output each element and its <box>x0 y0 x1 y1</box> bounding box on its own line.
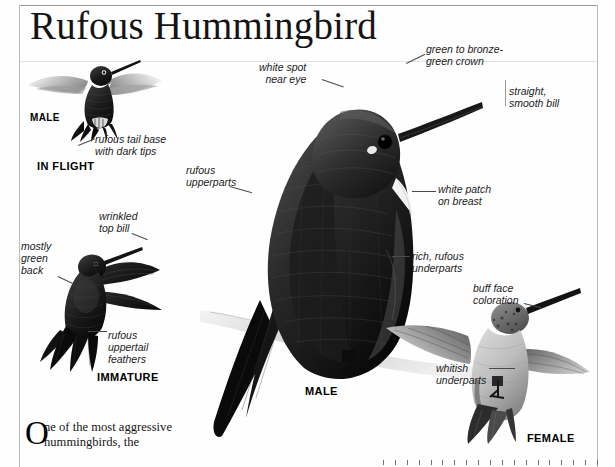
scale-ruler-tick <box>431 460 432 465</box>
page-right-rule <box>597 5 598 467</box>
scale-ruler-tick <box>490 460 491 465</box>
scale-ruler-tick <box>395 460 396 465</box>
illustration-male-in-flight <box>22 57 167 142</box>
annotation-green-bronze-crown: green to bronze- green crown <box>426 43 503 67</box>
scale-ruler-tick <box>442 460 443 465</box>
body-paragraph: ne of the most aggressive hummingbirds, … <box>44 420 244 449</box>
illustration-immature <box>30 230 180 380</box>
annotation-buff-face-coloration: buff face coloration <box>473 282 519 306</box>
annotation-rufous-tail-base: rufous tail base with dark tips <box>95 133 166 157</box>
page-title: Rufous Hummingbird <box>30 4 377 48</box>
scale-ruler-tick <box>407 460 408 465</box>
scale-ruler-tick <box>466 460 467 465</box>
scale-ruler-tick <box>454 460 455 465</box>
annotation-wrinkled-top-bill: wrinkled top bill <box>99 210 138 234</box>
scale-ruler-tick <box>383 460 384 465</box>
leader-rich-rufous-underparts <box>392 256 410 257</box>
leader-white-patch-on-breast <box>412 191 436 192</box>
leader-rufous-uppertail-feathers <box>88 331 107 332</box>
scale-ruler-tick <box>573 460 574 465</box>
field-guide-page: Rufous Hummingbird <box>0 0 615 467</box>
annotation-straight-smooth-bill: straight, smooth bill <box>509 85 559 109</box>
annotation-white-patch-on-breast: white patch on breast <box>438 183 491 207</box>
annotation-rufous-upperparts: rufous upperparts <box>186 164 236 188</box>
caption-female: FEMALE <box>527 432 575 444</box>
annotation-rich-rufous-underparts: rich, rufous underparts <box>412 250 464 274</box>
caption-male-perched: MALE <box>305 385 338 397</box>
illustration-female <box>382 284 597 444</box>
caption-immature: IMMATURE <box>97 371 159 383</box>
annotation-whitish-underparts: whitish underparts <box>436 362 486 386</box>
scale-ruler-tick <box>538 460 539 465</box>
scale-ruler-tick <box>526 460 527 465</box>
scale-ruler-tick <box>585 460 586 465</box>
scale-ruler-tick <box>514 460 515 465</box>
scale-ruler-tick <box>597 460 598 465</box>
scale-ruler <box>383 455 597 465</box>
caption-male-in-flight-sex: MALE <box>30 112 60 123</box>
scale-ruler-tick <box>419 460 420 465</box>
page-left-rule <box>19 5 20 467</box>
scale-ruler-tick <box>478 460 479 465</box>
annotation-rufous-uppertail-feathers: rufous uppertail feathers <box>108 329 148 366</box>
scale-ruler-tick <box>502 460 503 465</box>
scale-ruler-tick <box>549 460 550 465</box>
leader-straight-smooth-bill <box>505 80 506 106</box>
annotation-white-spot-near-eye: white spot near eye <box>259 61 306 85</box>
scale-ruler-tick <box>561 460 562 465</box>
annotation-mostly-green-back: mostly green back <box>21 240 51 277</box>
caption-male-in-flight-pose: IN FLIGHT <box>37 160 94 172</box>
leader-whitish-underparts <box>489 368 515 369</box>
